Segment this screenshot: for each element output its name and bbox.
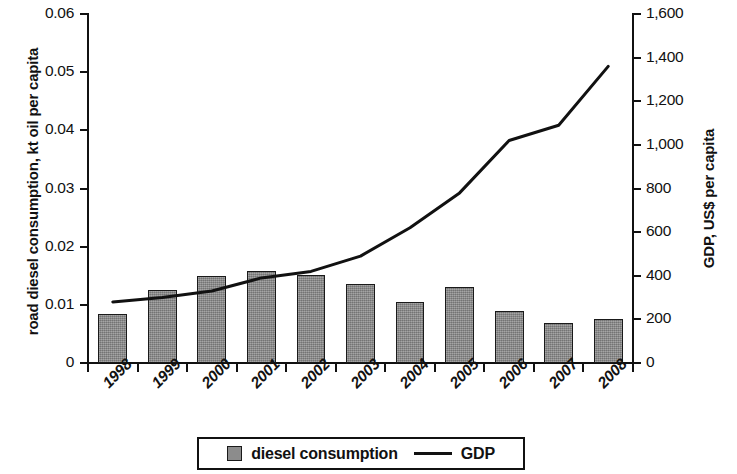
right-axis-tickmark [632, 318, 641, 320]
right-axis-tickmark [632, 13, 641, 15]
right-axis-tickmark [632, 231, 641, 233]
x-axis-tickmark [236, 363, 238, 372]
black-line-swatch-icon [414, 452, 452, 455]
left-axis-tickmark [80, 246, 89, 248]
right-axis-tickmark [632, 144, 641, 146]
chart-figure: road diesel consumption, kt oil per capi… [0, 0, 737, 474]
bar [297, 275, 326, 363]
legend-item-diesel-consumption: diesel consumption [227, 445, 398, 463]
x-axis-tickmark [285, 363, 287, 372]
x-axis-tickmark [87, 363, 89, 372]
left-axis-tickmark [80, 129, 89, 131]
left-axis-tick-label: 0.04 [16, 120, 74, 138]
right-axis-tickmark [632, 57, 641, 59]
left-axis-tick-label: 0.06 [16, 4, 74, 22]
x-axis-tickmark [384, 363, 386, 372]
left-axis-tickmark [80, 71, 89, 73]
x-axis-tickmark [434, 363, 436, 372]
bar [445, 287, 474, 363]
gray-square-swatch-icon [227, 446, 242, 461]
right-axis-tickmark [632, 188, 641, 190]
right-axis-tick-label: 1,200 [646, 91, 710, 109]
right-axis-tick-label: 400 [646, 266, 710, 284]
right-axis-tick-label: 0 [646, 353, 710, 371]
bar [346, 284, 375, 363]
right-axis-tick-label: 200 [646, 309, 710, 327]
left-axis-tickmark [80, 188, 89, 190]
left-axis-tick-label: 0.02 [16, 237, 74, 255]
left-axis-tick-label: 0.03 [16, 179, 74, 197]
legend-label-diesel-consumption: diesel consumption [251, 445, 398, 463]
bar [148, 290, 177, 363]
right-axis-tick-label: 600 [646, 222, 710, 240]
left-axis-tick-label: 0 [16, 353, 74, 371]
x-axis-tickmark [632, 363, 634, 372]
chart-legend: diesel consumption GDP [197, 437, 525, 470]
bar [247, 271, 276, 363]
left-axis-tick-label: 0.05 [16, 62, 74, 80]
x-axis-tickmark [186, 363, 188, 372]
right-axis-tick-label: 1,400 [646, 48, 710, 66]
line-series-gdp [0, 0, 737, 474]
right-axis-tick-label: 800 [646, 179, 710, 197]
x-axis-tickmark [582, 363, 584, 372]
bar [197, 276, 226, 363]
right-axis-tickmark [632, 100, 641, 102]
right-axis-tick-label: 1,600 [646, 4, 710, 22]
x-axis-tickmark [483, 363, 485, 372]
legend-item-gdp: GDP [414, 445, 495, 463]
x-axis-tickmark [335, 363, 337, 372]
legend-label-gdp: GDP [461, 445, 495, 463]
bar [396, 302, 425, 363]
x-axis-tickmark [137, 363, 139, 372]
gdp-line-path [113, 66, 608, 302]
left-axis-tickmark [80, 304, 89, 306]
x-axis-tickmark [533, 363, 535, 372]
left-axis-tick-label: 0.01 [16, 295, 74, 313]
left-axis-tickmark [80, 13, 89, 15]
right-axis-tickmark [632, 275, 641, 277]
right-axis-tick-label: 1,000 [646, 135, 710, 153]
